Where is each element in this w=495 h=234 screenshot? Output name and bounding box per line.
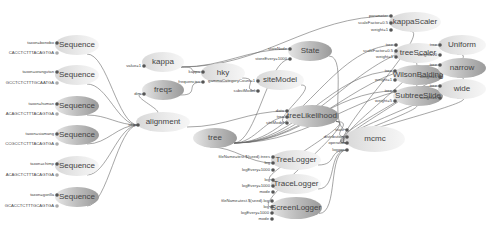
node-label: mcmc xyxy=(364,134,385,143)
input-port[interactable] xyxy=(438,96,442,100)
input-port[interactable] xyxy=(270,217,274,221)
input-port[interactable] xyxy=(256,79,260,83)
port-label: logEvery=1000 xyxy=(241,210,270,215)
input-port[interactable] xyxy=(438,84,442,88)
input-port[interactable] xyxy=(438,53,442,57)
node-kappaScaler[interactable]: kappaScalerparameterscaleFactor=0.5weigh… xyxy=(358,12,441,32)
node-seq3[interactable]: Sequencetaxon=humanACAGCTCTTTACAGTGA xyxy=(6,96,99,116)
input-port[interactable] xyxy=(270,199,274,203)
node-treeLikelihood[interactable]: treeLikelihooddatatreesiteModel xyxy=(266,105,339,127)
input-port[interactable] xyxy=(438,75,442,79)
input-port[interactable] xyxy=(393,99,397,103)
node-tree[interactable]: tree xyxy=(193,128,237,148)
input-port[interactable] xyxy=(438,43,442,47)
input-port[interactable] xyxy=(389,28,393,32)
port-label: distribution xyxy=(324,134,345,139)
input-port[interactable] xyxy=(345,148,349,152)
node-seq1[interactable]: Sequencetaxon=bonoboCACCTCTTTACAGTGA xyxy=(9,35,99,55)
input-port[interactable] xyxy=(201,80,205,84)
node-seq6[interactable]: Sequencetaxon=gorillaGCACCTCTTTGCAGTGA xyxy=(5,187,99,208)
input-port[interactable] xyxy=(55,142,59,146)
port-label: logEvery=1000 xyxy=(242,167,271,172)
port-label: ACAGCTCTTTACAGTGA xyxy=(6,111,55,116)
input-port[interactable] xyxy=(271,178,275,182)
input-port[interactable] xyxy=(285,109,289,113)
input-port[interactable] xyxy=(136,123,140,127)
port-label: seq xyxy=(128,122,135,127)
input-port[interactable] xyxy=(345,141,349,145)
node-ScreenLogger[interactable]: ScreenLoggerfileName=test.$(seed).loglog… xyxy=(221,197,322,221)
input-port[interactable] xyxy=(345,135,349,139)
input-port[interactable] xyxy=(288,57,292,61)
input-port[interactable] xyxy=(201,70,205,74)
port-label: value=1 xyxy=(126,63,141,68)
node-label: Sequence xyxy=(59,70,96,79)
node-label: kappa xyxy=(152,57,174,66)
port-label: scaleFactor=0.5 xyxy=(363,48,394,53)
port-label: tree xyxy=(277,114,285,119)
edge xyxy=(318,150,347,189)
input-port[interactable] xyxy=(271,161,275,165)
input-port[interactable] xyxy=(55,204,59,208)
port-label: tree xyxy=(386,42,394,47)
input-port[interactable] xyxy=(394,49,398,53)
input-port[interactable] xyxy=(389,14,393,18)
input-port[interactable] xyxy=(55,162,59,166)
input-port[interactable] xyxy=(55,193,59,197)
node-label: TreeLogger xyxy=(275,155,316,164)
input-port[interactable] xyxy=(271,155,275,159)
node-alignment[interactable]: alignmentseq xyxy=(128,112,190,132)
input-port[interactable] xyxy=(393,89,397,93)
input-port[interactable] xyxy=(55,81,59,85)
input-port[interactable] xyxy=(55,51,59,55)
input-port[interactable] xyxy=(270,211,274,215)
port-label: weight=10 xyxy=(418,52,438,57)
input-port[interactable] xyxy=(288,47,292,51)
port-label: log xyxy=(264,160,270,165)
port-label: storeEvery=1000 xyxy=(255,56,287,61)
edge xyxy=(319,150,347,214)
input-port[interactable] xyxy=(55,112,59,116)
port-label: gammaCategoryCount=1 xyxy=(208,78,256,83)
input-port[interactable] xyxy=(55,132,59,136)
input-port[interactable] xyxy=(285,121,289,125)
port-label: tree xyxy=(430,62,438,67)
node-label: State xyxy=(301,46,320,55)
input-port[interactable] xyxy=(271,184,275,188)
input-port[interactable] xyxy=(394,43,398,47)
input-port[interactable] xyxy=(271,190,275,194)
node-label: Uniform xyxy=(448,40,476,49)
input-port[interactable] xyxy=(55,41,59,45)
port-label: weight=1 xyxy=(420,95,438,100)
input-port[interactable] xyxy=(345,128,349,132)
node-label: TraceLogger xyxy=(273,179,318,188)
input-port[interactable] xyxy=(55,102,59,106)
node-TraceLogger[interactable]: TraceLoggerloglogEvery=1000mode xyxy=(242,174,321,194)
input-port[interactable] xyxy=(389,21,393,25)
input-port[interactable] xyxy=(394,55,398,59)
input-port[interactable] xyxy=(438,63,442,67)
input-port[interactable] xyxy=(142,92,146,96)
input-port[interactable] xyxy=(55,70,59,74)
input-port[interactable] xyxy=(55,173,59,177)
port-label: fileName=test.$(seed).trees xyxy=(218,154,270,159)
node-kappa[interactable]: kappavalue=1 xyxy=(126,52,184,72)
node-freqs[interactable]: freqsdim xyxy=(134,80,184,100)
edge xyxy=(318,150,347,165)
input-port[interactable] xyxy=(256,89,260,93)
input-port[interactable] xyxy=(270,205,274,209)
input-port[interactable] xyxy=(285,115,289,119)
port-label: operator xyxy=(328,140,344,145)
port-label: tree xyxy=(430,42,438,47)
node-seq2[interactable]: Sequencetaxon=orangutanGCCTCTCTTTGCAATGA xyxy=(6,65,99,85)
node-seq4[interactable]: Sequencetaxon=siamangCCGCCTCTTTACAGTGA xyxy=(5,125,99,146)
port-label: log xyxy=(264,177,270,182)
node-seq5[interactable]: Sequencetaxon=chimpACAGCTCTTTACAGTGA xyxy=(6,156,99,177)
input-port[interactable] xyxy=(271,168,275,172)
node-TreeLogger[interactable]: TreeLoggerfileName=test.$(seed).treeslog… xyxy=(218,150,321,172)
input-port[interactable] xyxy=(393,78,397,82)
node-label: freqs xyxy=(154,85,172,94)
input-port[interactable] xyxy=(142,64,146,68)
input-port[interactable] xyxy=(393,69,397,73)
node-mcmc[interactable]: mcmcstatedistributionoperatorlogger xyxy=(324,126,405,152)
